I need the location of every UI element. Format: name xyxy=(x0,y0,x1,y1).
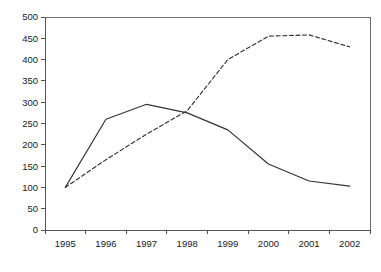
x-tick-label: 2000 xyxy=(258,238,279,249)
series-line-solid xyxy=(65,104,349,187)
y-tick-label: 350 xyxy=(22,75,38,86)
y-tick-label: 250 xyxy=(22,118,38,129)
plot-frame xyxy=(45,17,370,230)
y-tick-label: 0 xyxy=(33,224,38,235)
y-tick-label: 150 xyxy=(22,161,38,172)
series-line-dashed xyxy=(65,35,349,188)
y-tick-label: 300 xyxy=(22,97,38,108)
y-tick-label: 400 xyxy=(22,54,38,65)
y-tick-label: 50 xyxy=(27,203,38,214)
x-tick-label: 2001 xyxy=(298,238,319,249)
line-chart: 050100150200250300350400450500 199519961… xyxy=(0,0,381,272)
x-tick-label: 1998 xyxy=(177,238,198,249)
x-tick-label: 1995 xyxy=(55,238,76,249)
chart-canvas: 050100150200250300350400450500 199519961… xyxy=(0,0,381,272)
x-tick-label: 1996 xyxy=(95,238,116,249)
y-tick-label: 450 xyxy=(22,33,38,44)
y-axis-ticks: 050100150200250300350400450500 xyxy=(22,11,45,235)
series-group xyxy=(65,35,349,188)
x-tick-label: 1997 xyxy=(136,238,157,249)
y-tick-label: 500 xyxy=(22,11,38,22)
x-axis-ticks: 19951996199719981999200020012002 xyxy=(45,230,370,249)
y-tick-label: 200 xyxy=(22,139,38,150)
x-tick-label: 2002 xyxy=(339,238,360,249)
y-tick-label: 100 xyxy=(22,182,38,193)
x-tick-label: 1999 xyxy=(217,238,238,249)
